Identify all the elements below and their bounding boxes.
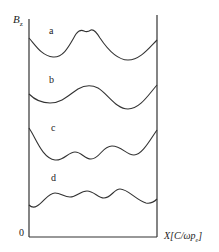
curve-a-label: a [49, 25, 53, 36]
curve-b-label: b [49, 74, 54, 85]
curve-c-label: c [51, 122, 55, 133]
curve-d-label: d [51, 172, 56, 183]
curve-d [29, 189, 157, 207]
origin-label: 0 [19, 227, 24, 238]
x-axis-label: X[C/ωpe] [164, 230, 202, 243]
chart-canvas [0, 0, 219, 252]
curve-c [29, 128, 157, 160]
y-axis-label: Bz [13, 13, 23, 28]
curve-b [29, 85, 157, 109]
